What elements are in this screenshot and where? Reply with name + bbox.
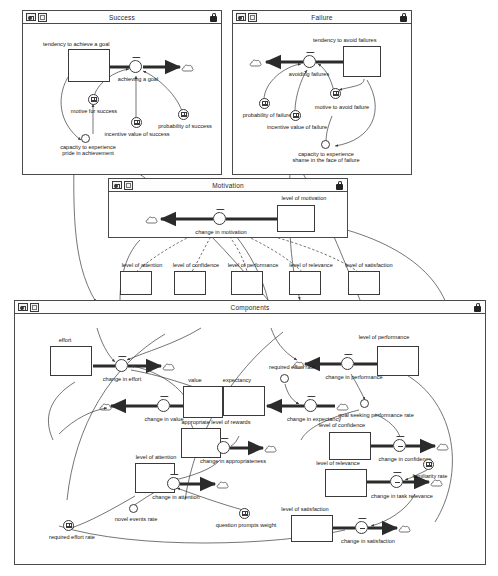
titlebar-failure[interactable]: Failure <box>233 11 411 24</box>
label-motive-for-success: motive for success <box>62 108 126 114</box>
panel-body-motivation: level of motivation change in motivation <box>109 192 347 237</box>
flow-valve-change-in-attention[interactable] <box>167 477 180 490</box>
ghost-stock-level-of-attention[interactable] <box>120 271 152 295</box>
label-level-of-motivation: level of motivation <box>264 195 344 201</box>
cloud-sink-expectancy <box>336 399 349 410</box>
frame-view-icon[interactable] <box>248 13 257 22</box>
label-avoiding-failures: avoiding failures <box>278 71 340 77</box>
panel-components[interactable]: Components <box>14 300 486 565</box>
ghost-stock-level-of-confidence[interactable] <box>174 271 206 295</box>
label-level-of-relevance: level of relevance <box>303 460 373 466</box>
aux-goal-seeking-performance-rate[interactable] <box>360 399 369 408</box>
ghost-stock-level-of-performance[interactable] <box>231 271 263 295</box>
converter-probability-of-failure[interactable] <box>259 98 270 109</box>
lock-icon[interactable] <box>400 13 407 22</box>
titlebar-icon-group[interactable] <box>23 13 47 22</box>
stock-level-of-satisfaction[interactable] <box>291 515 333 542</box>
label-change-in-attention: change in attention <box>141 494 211 500</box>
stock-value[interactable] <box>183 386 223 418</box>
diagram-view-icon[interactable] <box>26 13 36 21</box>
stock-expectancy[interactable] <box>223 386 265 416</box>
flow-valve-change-in-expectancy[interactable] <box>304 399 317 412</box>
cloud-sink-success <box>181 60 194 71</box>
lock-icon[interactable] <box>210 13 217 22</box>
converter-motive-for-success[interactable] <box>88 94 99 105</box>
cloud-sink-attention <box>216 477 229 488</box>
label-level-of-satisfaction: level of satisfaction <box>267 506 343 512</box>
lock-icon[interactable] <box>474 303 481 312</box>
converter-incentive-value-of-failure[interactable] <box>290 110 301 121</box>
stock-level-of-motivation[interactable] <box>277 205 315 232</box>
titlebar-icon-group[interactable] <box>233 13 257 22</box>
aux-required-effort-rate-top[interactable] <box>280 374 289 383</box>
cloud-sink-performance <box>292 357 305 368</box>
label-value: value <box>175 377 215 383</box>
flow-valve-achieving-a-goal[interactable] <box>129 60 142 73</box>
label-change-in-task-relevance: change in task relevance <box>359 493 445 499</box>
panel-title-failure: Failure <box>233 14 411 21</box>
label-motive-to-avoid-failure: motive to avoid failure <box>303 104 381 110</box>
converter-motive-to-avoid-failure[interactable] <box>330 88 341 99</box>
aux-novel-events-rate[interactable] <box>129 504 138 513</box>
stock-tendency-to-achieve-a-goal[interactable] <box>68 49 110 82</box>
panel-motivation[interactable]: Motivation level of motivation change in… <box>108 178 348 238</box>
label-familiarity-rate: familiarity rate <box>401 473 459 479</box>
flow-valve-change-in-confidence[interactable] <box>393 439 406 452</box>
label-probability-of-success: probability of success <box>151 123 219 129</box>
lock-icon[interactable] <box>336 181 343 190</box>
label-required-effort-rate-bottom: required effort rate <box>37 534 107 540</box>
label-capacity-pride-line2: pride in achievement <box>45 150 131 156</box>
label-effort: effort <box>45 337 85 343</box>
cloud-sink-confidence <box>436 439 449 450</box>
label-ghost-level-of-satisfaction: level of satisfaction <box>334 262 404 268</box>
cloud-sink-satisfaction <box>398 521 411 532</box>
diagram-view-icon[interactable] <box>112 181 122 189</box>
converter-probability-of-success[interactable] <box>178 109 189 120</box>
label-change-in-performance: change in performance <box>315 374 393 380</box>
converter-required-effort-rate-bottom[interactable] <box>63 520 74 531</box>
converter-incentive-value-of-success[interactable] <box>131 117 142 128</box>
titlebar-motivation[interactable]: Motivation <box>109 179 347 192</box>
converter-familiarity-rate[interactable] <box>423 459 434 470</box>
stock-effort[interactable] <box>50 346 92 376</box>
titlebar-icon-group[interactable] <box>109 181 133 190</box>
label-level-of-performance: level of performance <box>345 334 423 340</box>
label-incentive-value-of-failure: incentive value of failure <box>259 124 335 130</box>
titlebar-components[interactable]: Components <box>15 301 485 314</box>
titlebar-success[interactable]: Success <box>23 11 221 24</box>
label-expectancy: expectancy <box>211 377 263 383</box>
flow-valve-change-in-appropriateness[interactable] <box>217 441 230 454</box>
panel-failure[interactable]: Failure <box>232 10 412 175</box>
titlebar-icon-group[interactable] <box>15 303 39 312</box>
converter-question-prompts-weight[interactable] <box>239 508 250 519</box>
stock-level-of-performance[interactable] <box>377 346 419 376</box>
frame-view-icon[interactable] <box>124 181 133 190</box>
aux-capacity-to-experience-pride[interactable] <box>81 134 90 143</box>
frame-view-icon[interactable] <box>38 13 47 22</box>
aux-capacity-to-experience-shame[interactable] <box>321 140 330 149</box>
panel-body-success: tendency to achieve a goal achieving a g… <box>23 24 221 174</box>
label-tendency-to-achieve-a-goal: tendency to achieve a goal <box>43 41 163 47</box>
cloud-sink-failure <box>249 55 262 66</box>
flow-valve-avoiding-failures[interactable] <box>303 55 316 68</box>
flow-valve-change-in-performance[interactable] <box>341 357 354 370</box>
panel-title-motivation: Motivation <box>109 182 347 189</box>
stock-level-of-confidence[interactable] <box>329 432 371 460</box>
label-appropriate-level-of-rewards: appropriate level of rewards <box>167 419 265 425</box>
label-question-prompts-weight: question prompts weight <box>207 522 285 528</box>
flow-valve-change-in-motivation[interactable] <box>213 212 226 225</box>
ghost-stock-level-of-relevance[interactable] <box>289 271 321 295</box>
frame-view-icon[interactable] <box>30 303 39 312</box>
label-change-in-appropriateness: change in appropriateness <box>191 458 275 464</box>
stock-tendency-to-avoid-failures[interactable] <box>343 46 381 77</box>
flow-valve-change-in-value[interactable] <box>157 399 170 412</box>
label-capacity-shame-line2: shame in the face of failure <box>273 157 379 163</box>
cloud-sink-motivation <box>145 212 158 223</box>
label-change-in-motivation: change in motivation <box>187 229 255 235</box>
flow-valve-change-in-satisfaction[interactable] <box>355 521 368 534</box>
diagram-view-icon[interactable] <box>236 13 246 21</box>
diagram-view-icon[interactable] <box>18 303 28 311</box>
panel-success[interactable]: Success <box>22 10 222 175</box>
flow-valve-change-in-effort[interactable] <box>115 359 128 372</box>
ghost-stock-level-of-satisfaction[interactable] <box>348 271 380 295</box>
